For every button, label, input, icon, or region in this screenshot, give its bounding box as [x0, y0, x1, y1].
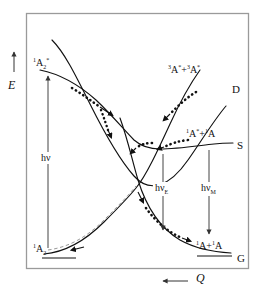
curve-dimer-D: [52, 40, 226, 186]
x-axis-label: Q: [196, 272, 205, 284]
transition-label-hv-e: hνE: [153, 182, 170, 196]
relaxation-arrow-upper-left-dotted: [72, 88, 100, 107]
transition-label-hv-e-main: hν: [155, 182, 165, 193]
curve-end-label-G: G: [237, 253, 245, 264]
relaxation-arrow-ground-left-head: [72, 247, 84, 250]
state-label-a2-star: 1A2*: [33, 57, 49, 70]
relaxation-arrow-upper-left-branch-head: [108, 130, 111, 137]
curve-ground-left-branch: [44, 70, 200, 254]
state-label-a2-star-sub: 2: [43, 64, 46, 70]
transition-label-hv-e-sub: E: [165, 189, 169, 195]
relaxation-arrow-dimer-head: [164, 114, 170, 120]
plot-frame: [27, 14, 249, 269]
state-label-a2-star-asterisk: *: [46, 57, 49, 63]
state-label-excimer-base2: A: [208, 128, 215, 139]
curve-end-label-D: D: [232, 84, 240, 95]
transition-label-hv-m-sub: M: [211, 189, 216, 195]
state-label-a2-sub: 2: [43, 250, 46, 256]
state-label-excimer: 1A*+1A: [186, 128, 215, 139]
transition-label-hv: hν: [39, 152, 53, 164]
state-label-ground: 1A+1A: [196, 240, 222, 251]
relaxation-arrow-dimer-dotted: [170, 92, 196, 114]
state-label-ground-base2: A: [215, 240, 222, 251]
relaxation-arrow-excimer-left-head: [131, 148, 136, 153]
relaxation-arrow-ground-right-head: [182, 238, 190, 241]
relaxation-arrow-excimer-right-dotted: [164, 140, 188, 147]
y-axis-label: E: [8, 79, 15, 91]
transition-label-hv-m-main: hν: [201, 182, 211, 193]
curve-ground-dashed-companion: [48, 186, 136, 250]
state-label-dimer: 3A*+3A*: [168, 64, 200, 75]
state-label-dimer-star2: *: [197, 64, 200, 70]
relaxation-arrow-ground-right-dotted: [146, 208, 182, 238]
transition-label-hv-m: hνM: [199, 182, 218, 196]
diagram-root: E Q 1A2* 1A2 3A*+3A* D 1A*+1A S 1A+1A G …: [0, 0, 265, 299]
curve-end-label-S: S: [237, 140, 243, 151]
state-label-a2: 1A2: [33, 243, 46, 256]
